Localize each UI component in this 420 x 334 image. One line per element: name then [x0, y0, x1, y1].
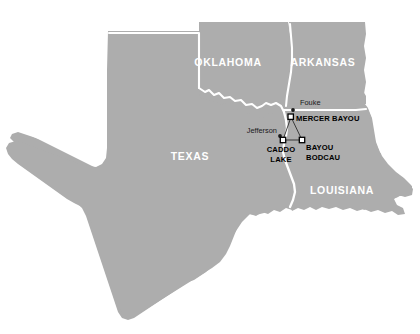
map-canvas: Regional map of Texas, Oklahoma, Arkansa…: [0, 0, 420, 334]
city-label-jefferson: Jefferson: [247, 126, 277, 135]
site-label-bayou-bodcau-line1: BAYOU: [306, 143, 334, 152]
map-figure: Regional map of Texas, Oklahoma, Arkansa…: [0, 0, 420, 334]
state-label-texas: TEXAS: [171, 150, 210, 162]
state-label-oklahoma: OKLAHOMA: [194, 56, 261, 68]
site-marker-bayou-bodcau[interactable]: [299, 137, 304, 142]
site-label-bayou-bodcau-line2: BODCAU: [306, 153, 341, 162]
city-dot-fouke: [291, 108, 295, 112]
arkansas-louisiana-border: [284, 109, 366, 110]
city-label-fouke: Fouke: [300, 98, 321, 107]
site-label-mercer-bayou: MERCER BAYOU: [296, 114, 360, 123]
site-label-caddo-lake-line1: CADDO: [267, 145, 296, 154]
state-label-arkansas: ARKANSAS: [290, 56, 355, 68]
state-label-louisiana: LOUISIANA: [310, 184, 374, 196]
site-marker-caddo-lake[interactable]: [280, 137, 285, 142]
site-marker-mercer-bayou[interactable]: [288, 114, 293, 119]
site-label-caddo-lake-line2: LAKE: [270, 155, 291, 164]
